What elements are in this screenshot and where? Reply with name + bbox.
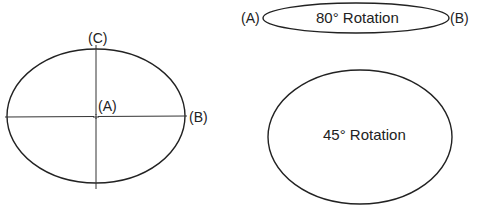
rotation-80-label-b: (B)	[450, 10, 469, 26]
rotation-45-group: 45° Rotation	[268, 70, 452, 204]
ellipse-diagram: (C) (A) (B) (A) (B) 80° Rotation 45° Rot…	[0, 0, 482, 210]
label-b: (B)	[189, 109, 208, 125]
rotation-45-caption: 45° Rotation	[323, 126, 406, 143]
rotation-80-label-a: (A)	[241, 10, 260, 26]
label-c: (C)	[88, 30, 107, 46]
rotation-80-caption: 80° Rotation	[316, 9, 399, 26]
label-a: (A)	[98, 98, 117, 114]
reference-ellipse-group: (C) (A) (B)	[5, 30, 208, 189]
rotation-80-group: (A) (B) 80° Rotation	[241, 3, 469, 33]
